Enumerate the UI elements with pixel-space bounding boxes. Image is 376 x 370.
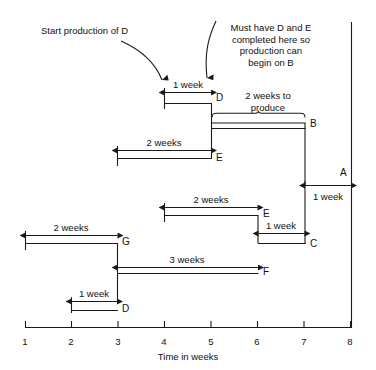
- annotation-must-have-line1: Must have D and E: [231, 22, 312, 34]
- annotation-two-weeks-to-produce: 2 weeks to produce: [245, 90, 290, 113]
- dimension-label-g: 2 weeks: [54, 222, 89, 233]
- activity-f: [118, 268, 259, 274]
- x-tick-label-7: 7: [301, 336, 306, 347]
- annotation-start-production: Start production of D: [41, 25, 128, 36]
- node-label-f: F: [263, 266, 269, 277]
- x-tick-label-2: 2: [68, 336, 73, 347]
- x-tick-label-8: 8: [347, 336, 352, 347]
- diagram-canvas: [0, 0, 376, 370]
- dimension-label-a: 1 week: [313, 191, 343, 202]
- annotation-must-have-line2: completed here so: [231, 34, 312, 46]
- activity-e-lower: [165, 203, 259, 244]
- node-label-d-lower: D: [122, 303, 129, 314]
- curved-arrow-start-production: [121, 41, 162, 80]
- x-axis-title: Time in weeks: [158, 351, 218, 362]
- x-tick-label-1: 1: [22, 336, 27, 347]
- dimension-label-d-top: 1 week: [173, 79, 203, 90]
- x-tick-label-3: 3: [115, 336, 120, 347]
- dimension-label-e-upper: 2 weeks: [147, 137, 182, 148]
- activity-d-lower: [72, 297, 119, 313]
- x-tick-label-6: 6: [254, 336, 259, 347]
- node-label-g: G: [122, 236, 130, 247]
- curved-arrow-must-have: [206, 21, 216, 78]
- dimension-label-e-lower: 2 weeks: [194, 194, 229, 205]
- node-label-b: B: [310, 118, 317, 129]
- annotation-must-have-line4: begin on B: [231, 57, 312, 69]
- annotation-must-have: Must have D and E completed here so prod…: [231, 22, 312, 68]
- x-tick-label-4: 4: [161, 336, 166, 347]
- node-label-a: A: [340, 167, 347, 178]
- annotation-produce-line2: produce: [245, 102, 290, 114]
- x-tick-label-5: 5: [208, 336, 213, 347]
- activity-e-upper: [118, 146, 213, 166]
- node-label-c: C: [310, 238, 317, 249]
- annotation-must-have-line3: production can: [231, 45, 312, 57]
- leader-start-production: [121, 41, 162, 80]
- network-diagram: Start production of D Must have D and E …: [0, 0, 376, 370]
- dimension-label-f: 3 weeks: [170, 254, 205, 265]
- activity-c: [258, 234, 306, 244]
- node-label-d-top: D: [216, 92, 223, 103]
- dimension-label-c: 1 week: [266, 220, 296, 231]
- node-label-e-upper: E: [216, 152, 223, 163]
- leader-must-have: [206, 21, 216, 78]
- annotation-produce-line1: 2 weeks to: [245, 90, 290, 102]
- activity-b: [212, 123, 306, 186]
- node-label-e-lower: E: [263, 208, 270, 219]
- dimension-label-d-lower: 1 week: [79, 288, 109, 299]
